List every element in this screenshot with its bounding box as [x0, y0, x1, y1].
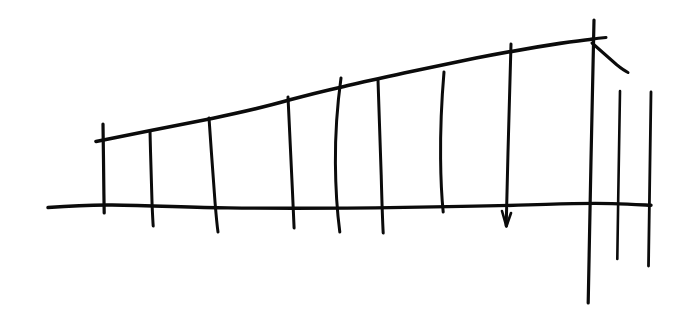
ground-line — [48, 203, 651, 208]
top-rail — [96, 39, 592, 141]
post-6 — [378, 80, 383, 233]
post-2 — [150, 131, 153, 226]
post-10 — [617, 91, 620, 259]
post-1 — [103, 124, 104, 213]
post-8 — [506, 44, 511, 226]
diagonal-brace — [592, 43, 628, 73]
post-9 — [588, 20, 594, 303]
post-3 — [209, 118, 218, 232]
post-7 — [441, 72, 444, 212]
sketch-canvas — [0, 0, 697, 331]
post-11 — [649, 92, 652, 266]
fence-perspective-sketch — [0, 0, 697, 331]
